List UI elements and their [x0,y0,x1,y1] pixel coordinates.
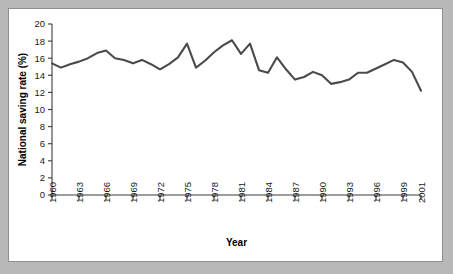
y-tick-label: 18 [34,36,45,47]
x-tick-label: 1993 [344,182,355,203]
x-tick-label: 1972 [155,182,166,203]
x-tick-label: 1987 [290,182,301,203]
y-tick-label: 12 [34,87,45,98]
x-tick-label: 1963 [74,182,85,203]
x-tick-label: 1990 [317,182,328,203]
y-axis: 02468101214161820 [34,18,52,200]
y-tick-label: 0 [40,189,45,200]
y-tick-label: 14 [34,70,45,81]
y-tick-label: 20 [34,18,45,29]
y-tick-label: 2 [40,172,45,183]
y-tick-label: 8 [40,121,45,132]
x-tick-label: 1969 [128,182,139,203]
x-tick-label: 1978 [209,182,220,203]
y-tick-label: 10 [34,104,45,115]
y-axis-title: National saving rate (%) [17,53,28,166]
x-tick-label: 1975 [182,182,193,203]
x-tick-label: 2001 [416,182,427,203]
y-tick-label: 6 [40,138,45,149]
y-tick-label: 16 [34,53,45,64]
x-tick-label: 1984 [263,182,274,203]
x-tick-label: 1966 [101,182,112,203]
figure-panel: 02468101214161820 1960196319661969197219… [8,8,443,262]
x-tick-label: 1999 [398,182,409,203]
line-chart-svg: 02468101214161820 1960196319661969197219… [9,9,444,263]
x-axis-title: Year [226,237,247,248]
x-tick-label: 1981 [236,182,247,203]
data-series-line [52,40,421,90]
x-axis: 1960196319661969197219751978198119841987… [47,182,427,203]
x-tick-label: 1996 [371,182,382,203]
x-tick-label: 1960 [47,182,58,203]
chart-plot-area: 02468101214161820 1960196319661969197219… [9,9,444,263]
y-tick-label: 4 [40,155,45,166]
